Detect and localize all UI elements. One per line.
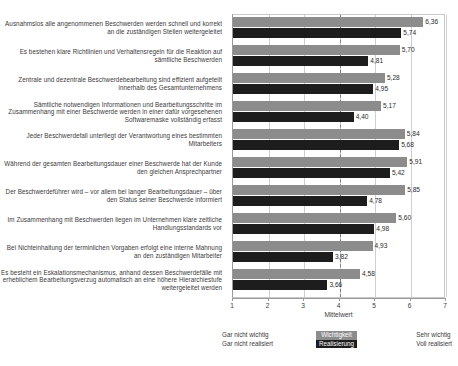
category-label-text: Im Zusammenhang mit Beschwerden liegen i… [0,216,222,231]
category-label-text: Zentrale und dezentrale Beschwerdebearbe… [0,76,222,91]
axis-tick-label: 2 [266,302,270,309]
bar-group: 6,365,74 [233,15,444,43]
legend-scale-low: Gar nicht wichtig Gar nicht realisiert [222,331,273,348]
bar-group: 5,704,81 [233,43,444,71]
bar-value-label: 4,98 [374,224,389,234]
category-label-text: Sämtliche notwendigen Informationen und … [0,101,222,124]
category-label: Sämtliche notwendigen Informationen und … [0,98,228,126]
x-axis: 1234567 [232,298,445,299]
chart-legend: Gar nicht wichtig Gar nicht realisiert W… [218,331,458,355]
category-label: Bei Nichteinhaltung der terminlichen Vor… [0,238,228,266]
category-label-text: Ausnahmslos alle angenommenen Beschwerde… [0,20,222,35]
bar-value-label: 4,81 [368,56,383,66]
bar-wichtigkeit [233,45,400,55]
bar-group: 5,854,78 [233,183,444,211]
bar-wichtigkeit [233,17,423,27]
bar-value-label: 4,58 [360,269,375,279]
bar-value-label: 5,42 [390,168,405,178]
legend-high-importance: Sehr wichtig [416,331,452,340]
axis-tick [232,298,233,301]
bar-value-label: 5,70 [400,45,415,55]
category-label: Jeder Beschwerdefall unterliegt der Vera… [0,126,228,154]
bar-wichtigkeit [233,185,405,195]
category-label: Ausnahmslos alle angenommenen Beschwerde… [0,14,228,42]
bar-wichtigkeit [233,129,405,139]
bar-wichtigkeit [233,73,385,83]
bar-value-label: 4,93 [373,241,388,251]
legend-scale-high: Sehr wichtig Voll realisiert [416,331,452,348]
bar-value-label: 4,78 [367,196,382,206]
bar-realisierung [233,168,390,178]
legend-series-keys: Wichtigkeit Realisierung [316,331,357,348]
bar-value-label: 5,17 [381,101,396,111]
category-label-text: Bei Nichteinhaltung der terminlichen Vor… [0,244,222,259]
legend-key-realisierung: Realisierung [316,340,357,349]
bar-value-label: 5,68 [399,140,414,150]
complaint-management-bar-chart: Ausnahmslos alle angenommenen Beschwerde… [0,0,458,366]
x-axis-title: Mittelwert [232,311,445,318]
bar-realisierung [233,56,368,66]
bar-value-label: 4,40 [354,112,369,122]
axis-tick-label: 7 [443,302,447,309]
bar-value-label: 5,84 [405,129,420,139]
category-label-text: Während der gesamten Bearbeitungsdauer e… [0,160,222,175]
legend-low-importance: Gar nicht wichtig [222,331,273,340]
bar-realisierung [233,112,354,122]
bar-realisierung [233,28,401,38]
bar-value-label: 5,28 [385,73,400,83]
axis-tick [445,298,446,301]
bar-group: 5,604,98 [233,211,444,239]
category-label: Während der gesamten Bearbeitungsdauer e… [0,154,228,182]
legend-low-realisation: Gar nicht realisiert [222,340,273,349]
bar-group: 4,933,82 [233,239,444,267]
bar-realisierung [233,224,374,234]
axis-tick-label: 1 [230,302,234,309]
bar-group: 5,284,95 [233,71,444,99]
category-label: Der Beschwerdeführer wird – vor allem be… [0,182,228,210]
category-label-text: Der Beschwerdeführer wird – vor allem be… [0,188,222,203]
category-label-text: Jeder Beschwerdefall unterliegt der Vera… [0,132,222,147]
bar-wichtigkeit [233,213,396,223]
bar-wichtigkeit [233,101,381,111]
legend-high-realisation: Voll realisiert [416,340,452,349]
bar-realisierung [233,252,333,262]
axis-tick [374,298,375,301]
bar-value-label: 5,74 [401,28,416,38]
bar-value-label: 4,95 [373,84,388,94]
bar-realisierung [233,140,399,150]
axis-tick-label: 6 [408,302,412,309]
axis-tick [339,298,340,301]
bar-value-label: 5,85 [405,185,420,195]
category-label: Im Zusammenhang mit Beschwerden liegen i… [0,210,228,238]
axis-tick-label: 4 [337,302,341,309]
bar-value-label: 5,91 [407,157,422,167]
bar-realisierung [233,280,327,290]
category-label-column: Ausnahmslos alle angenommenen Beschwerde… [0,14,228,294]
category-label-text: Es besteht ein Eskalationsmechanismus, a… [0,269,222,292]
bar-group: 5,174,40 [233,99,444,127]
bar-group: 4,583,66 [233,267,444,295]
bar-value-label: 3,66 [327,280,342,290]
bar-wichtigkeit [233,269,360,279]
axis-tick [410,298,411,301]
bar-group: 5,915,42 [233,155,444,183]
category-label: Es bestehen klare Richtlinien und Verhal… [0,42,228,70]
bar-value-label: 6,36 [423,17,438,27]
plot-area: 6,365,745,704,815,284,955,174,405,845,68… [232,14,445,298]
bar-value-label: 5,60 [396,213,411,223]
axis-tick-label: 3 [301,302,305,309]
category-label: Zentrale und dezentrale Beschwerdebearbe… [0,70,228,98]
bar-value-label: 3,82 [333,252,348,262]
axis-tick-label: 5 [372,302,376,309]
gridline [446,15,447,297]
bar-wichtigkeit [233,241,373,251]
bar-realisierung [233,84,373,94]
category-label: Es besteht ein Eskalationsmechanismus, a… [0,266,228,294]
bar-realisierung [233,196,367,206]
legend-key-wichtigkeit: Wichtigkeit [316,331,357,340]
axis-tick [268,298,269,301]
bar-wichtigkeit [233,157,407,167]
category-label-text: Es bestehen klare Richtlinien und Verhal… [0,48,222,63]
bar-group: 5,845,68 [233,127,444,155]
axis-tick [303,298,304,301]
